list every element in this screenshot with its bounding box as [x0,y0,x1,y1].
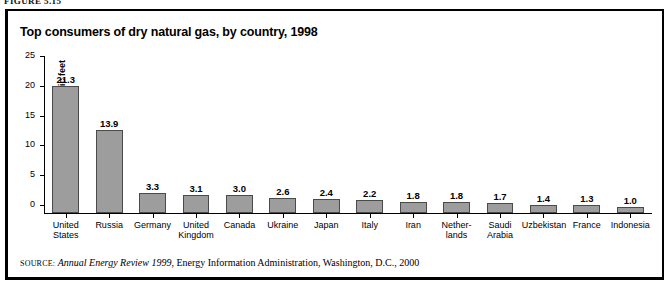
y-axis-tick-label: 10 [25,139,35,149]
bar-value-label: 1.8 [450,190,463,201]
x-axis-category-label: Italy [348,220,391,230]
y-axis-tick: 10 [40,145,45,146]
x-axis-tick [66,214,67,218]
y-axis-tick: 15 [40,116,45,117]
x-axis-tick [500,214,501,218]
x-axis-tick [543,214,544,218]
bar-value-label: 3.0 [233,183,246,194]
bar: 1.8 [443,202,470,213]
bar-value-label: 13.9 [100,118,119,129]
bar-value-label: 3.3 [146,181,159,192]
x-axis-category-label-line: Iran [391,220,434,230]
x-axis-category-label-line: Uzbekistan [522,220,565,230]
chart-title: Top consumers of dry natural gas, by cou… [20,25,318,39]
y-axis-tick: 25 [40,56,45,57]
bar-value-label: 1.8 [407,190,420,201]
y-axis-tick: 20 [40,86,45,87]
x-axis-category-label: SaudiArabia [478,220,521,240]
bar: 3.0 [226,195,253,213]
y-axis-tick-label: 20 [25,80,35,90]
x-axis-category-label: Iran [391,220,434,230]
chart-plot-area: Trillion cubic feet 0510152025 21.313.93… [44,56,652,221]
x-axis-category-label-line: United [44,220,87,230]
bar: 1.0 [617,207,644,213]
y-axis-tick: 5 [40,175,45,176]
bar-value-label: 2.6 [276,186,289,197]
bar-value-label: 1.4 [537,193,550,204]
bar: 1.4 [530,205,557,213]
x-axis-tick [109,214,110,218]
x-axis-category-label: Germany [131,220,174,230]
x-axis-category-label-line: Japan [305,220,348,230]
bar-value-label: 2.4 [320,187,333,198]
x-axis-category-label: Canada [218,220,261,230]
bar: 1.7 [487,203,514,213]
x-axis-category-label: France [565,220,608,230]
bar: 2.6 [269,198,296,213]
x-axis-category-label: Japan [305,220,348,230]
x-axis-category-label: UnitedKingdom [174,220,217,240]
figure-caption: FIGURE 5.15 [4,0,61,4]
bar: 3.1 [183,195,210,213]
bar: 1.8 [400,202,427,213]
x-axis-line [44,213,652,214]
x-axis-tick [630,214,631,218]
x-axis-tick [153,214,154,218]
source-label: SOURCE: [20,259,55,268]
x-axis-category-label: Russia [87,220,130,230]
x-axis-category-label-line: lands [435,230,478,240]
x-axis-tick [413,214,414,218]
x-axis-category-label-line: Italy [348,220,391,230]
x-axis-category-label-line: Ukraine [261,220,304,230]
y-axis-tick: 0 [40,205,45,206]
x-axis-category-label-line: Nether- [435,220,478,230]
bar: 2.4 [313,199,340,213]
bar-value-label: 21.3 [56,74,75,85]
x-axis-tick [587,214,588,218]
x-axis-tick [370,214,371,218]
x-axis-category-label-line: United [174,220,217,230]
source-note: SOURCE: Annual Energy Review 1999, Energ… [20,257,419,268]
x-axis-category-label-line: France [565,220,608,230]
x-axis-tick [326,214,327,218]
bar: 1.3 [573,205,600,213]
source-rest: , Energy Information Administration, Was… [171,257,419,268]
bar-value-label: 3.1 [189,183,202,194]
x-axis-tick [239,214,240,218]
source-title: Annual Energy Review 1999 [58,257,172,268]
x-axis-category-label: Uzbekistan [522,220,565,230]
x-axis-category-label-line: Russia [87,220,130,230]
bar: 13.9 [96,130,123,213]
x-axis-tick [283,214,284,218]
y-axis-line [44,56,45,213]
x-axis-category-label: Ukraine [261,220,304,230]
bar-value-label: 1.3 [580,193,593,204]
bar-value-label: 1.0 [624,195,637,206]
x-axis-category-label-line: Arabia [478,230,521,240]
y-axis-tick-label: 0 [30,199,35,209]
x-axis-category-label-line: Indonesia [609,220,652,230]
x-axis-tick [196,214,197,218]
x-axis-category-label-line: Saudi [478,220,521,230]
x-axis-category-label: Nether-lands [435,220,478,240]
bar: 21.3 [52,86,79,213]
x-axis-tick [457,214,458,218]
x-axis-category-label-line: States [44,230,87,240]
x-axis-category-label-line: Canada [218,220,261,230]
bar: 3.3 [139,193,166,213]
y-axis-tick-label: 25 [25,50,35,60]
x-axis-category-label: UnitedStates [44,220,87,240]
y-axis-tick-label: 5 [30,169,35,179]
bar: 2.2 [356,200,383,213]
bar-value-label: 1.7 [493,191,506,202]
x-axis-category-label-line: Kingdom [174,230,217,240]
x-axis-category-label: Indonesia [609,220,652,230]
figure-box: Top consumers of dry natural gas, by cou… [5,9,664,280]
y-axis-tick-label: 15 [25,110,35,120]
x-axis-category-label-line: Germany [131,220,174,230]
bar-value-label: 2.2 [363,188,376,199]
